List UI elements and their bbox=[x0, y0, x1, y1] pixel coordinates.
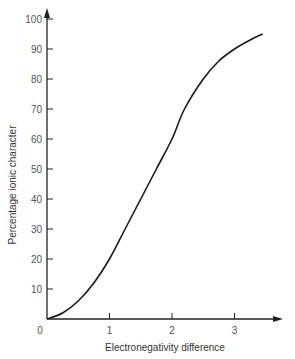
chart: 102030405060708090100 0123 Electronegati… bbox=[0, 0, 295, 359]
x-ticks: 0123 bbox=[37, 313, 238, 336]
y-tick-label: 40 bbox=[31, 194, 43, 205]
axes bbox=[44, 8, 283, 322]
data-line bbox=[47, 34, 263, 319]
y-axis-arrow-icon bbox=[44, 8, 50, 18]
y-tick-label: 60 bbox=[31, 134, 43, 145]
y-tick-label: 90 bbox=[31, 44, 43, 55]
x-tick-label: 0 bbox=[37, 325, 43, 336]
x-axis-arrow-icon bbox=[273, 316, 283, 322]
x-axis-title: Electronegativity difference bbox=[105, 342, 225, 353]
y-tick-label: 30 bbox=[31, 224, 43, 235]
y-axis-title: Percentage ionic character bbox=[7, 125, 18, 245]
x-tick-label: 2 bbox=[169, 325, 175, 336]
x-tick-label: 3 bbox=[232, 325, 238, 336]
y-ticks: 102030405060708090100 bbox=[25, 14, 53, 295]
y-tick-label: 20 bbox=[31, 254, 43, 265]
x-tick-label: 1 bbox=[107, 325, 113, 336]
y-tick-label: 100 bbox=[25, 14, 42, 25]
y-tick-label: 80 bbox=[31, 74, 43, 85]
y-tick-label: 70 bbox=[31, 104, 43, 115]
y-tick-label: 50 bbox=[31, 164, 43, 175]
y-tick-label: 10 bbox=[31, 284, 43, 295]
